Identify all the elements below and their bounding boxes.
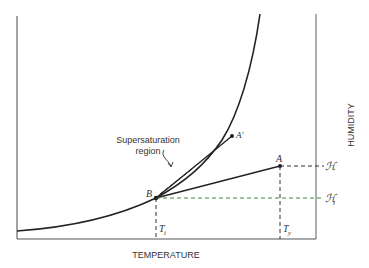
label-ti-sub: i (164, 229, 166, 237)
diagram-canvas: Supersaturation region A' A B ℋ ℋ i T i … (0, 0, 369, 268)
point-b (154, 196, 158, 200)
saturation-curve (17, 14, 260, 231)
annotation-line1: Supersaturation (116, 135, 180, 145)
point-a (278, 164, 282, 168)
humidity-temperature-diagram: Supersaturation region A' A B ℋ ℋ i T i … (0, 0, 369, 268)
label-ty-sub: y (287, 229, 292, 237)
x-axis-label: TEMPERATURE (132, 250, 199, 260)
y-axis-label: HUMIDITY (346, 103, 356, 147)
annotation-line2: region (135, 146, 160, 156)
label-a: A (275, 153, 283, 164)
label-b: B (146, 188, 152, 199)
label-hi: ℋ (325, 192, 338, 204)
point-a-prime (230, 134, 234, 138)
annotation-arrow (163, 150, 171, 166)
label-hi-sub: i (333, 199, 335, 207)
label-h: ℋ (325, 160, 338, 172)
label-a-prime: A' (235, 130, 244, 140)
